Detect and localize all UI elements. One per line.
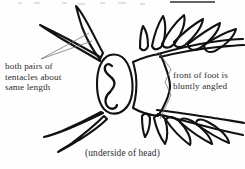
annotation-right-foot: front of foot is bluntly angled bbox=[173, 70, 245, 91]
lower-right-lobes bbox=[142, 110, 244, 145]
lower-left-tentacle-pair bbox=[44, 112, 107, 152]
upper-right-lobes bbox=[140, 15, 244, 57]
figure-caption: (underside of head) bbox=[0, 148, 245, 158]
figure-page: both pairs of tentacles about same lengt… bbox=[0, 0, 245, 169]
foot bbox=[133, 54, 170, 116]
head-inner-s-mark bbox=[105, 64, 117, 109]
annotation-left-tentacles: both pairs of tentacles about same lengt… bbox=[5, 61, 83, 93]
upper-left-tentacle-pair bbox=[40, 6, 103, 61]
